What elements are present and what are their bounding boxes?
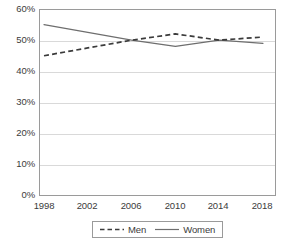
x-axis-tick-label: 2018 bbox=[242, 200, 282, 211]
series-line-women bbox=[44, 25, 263, 47]
legend-label-men: Men bbox=[128, 225, 146, 235]
x-axis-tick-label: 2002 bbox=[67, 200, 107, 211]
legend-swatch-solid-icon bbox=[155, 226, 179, 233]
x-axis-tick-label: 2006 bbox=[111, 200, 151, 211]
y-axis-tick-label: 30% bbox=[0, 97, 35, 107]
y-axis-tick-label: 20% bbox=[0, 128, 35, 138]
y-axis-tick-label: 0% bbox=[0, 190, 35, 200]
y-axis-tick-label: 60% bbox=[0, 4, 35, 14]
legend-entry-women: Women bbox=[155, 225, 215, 235]
y-axis-tick-label: 40% bbox=[0, 66, 35, 76]
legend-label-women: Women bbox=[183, 225, 215, 235]
chart-legend: Men Women bbox=[92, 221, 223, 238]
series-layer bbox=[39, 9, 276, 196]
line-chart: 60% 50% 40% 30% 20% 10% 0% 1998 2002 200… bbox=[0, 0, 286, 240]
x-axis-tick-label: 2014 bbox=[198, 200, 238, 211]
x-axis-tick-label: 1998 bbox=[24, 200, 64, 211]
series-line-men bbox=[44, 34, 263, 56]
y-axis-tick-label: 10% bbox=[0, 159, 35, 169]
legend-swatch-dashed-icon bbox=[100, 226, 124, 233]
x-axis-tick-label: 2010 bbox=[155, 200, 195, 211]
legend-entry-men: Men bbox=[100, 225, 146, 235]
y-axis-tick-label: 50% bbox=[0, 35, 35, 45]
